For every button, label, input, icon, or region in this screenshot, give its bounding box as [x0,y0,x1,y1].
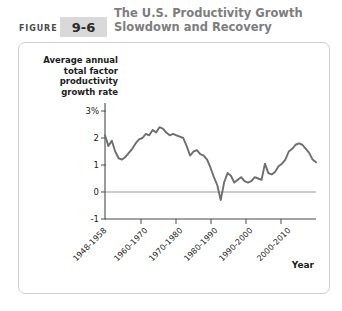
figure-container: FIGURE 9-6 The U.S. Productivity Growth … [0,0,342,311]
figure-title-line-2: Slowdown and Recovery [114,20,338,34]
x-axis-tick-marks [141,219,281,224]
data-series-line [105,127,316,200]
x-tick-label-1948-1958: 1948-1958 [71,226,108,263]
x-axis-ticks: 1948-1958 1960-1970 1970-1980 1980-1990 … [71,226,292,263]
x-tick-label-1960-1970: 1960-1970 [112,226,149,263]
y-tick-label-neg1: -1 [91,214,99,224]
figure-header: FIGURE 9-6 The U.S. Productivity Growth … [0,0,342,42]
x-tick-label-1990-2000: 1990-2000 [217,226,254,263]
figure-title: The U.S. Productivity Growth Slowdown an… [114,6,338,34]
y-tick-label-2: 2 [94,133,99,143]
y-tick-label-3: 3% [86,106,100,116]
y-tick-label-0: 0 [94,187,99,197]
x-tick-label-1980-1990: 1980-1990 [182,226,219,263]
x-axis-title: Year [291,260,315,270]
x-tick-label-2000-2010: 2000-2010 [255,226,292,263]
line-chart: 3% 2 1 0 -1 [19,43,331,295]
x-tick-label-1970-1980: 1970-1980 [147,226,184,263]
figure-label: FIGURE [19,24,58,33]
figure-number-badge: 9-6 [60,17,107,37]
figure-number-text: 9-6 [72,20,96,35]
figure-title-line-1: The U.S. Productivity Growth [114,6,338,20]
y-tick-label-1: 1 [94,160,99,170]
chart-card: Average annual total factor productivity… [18,42,330,294]
y-axis-ticks: 3% 2 1 0 -1 [86,106,100,224]
